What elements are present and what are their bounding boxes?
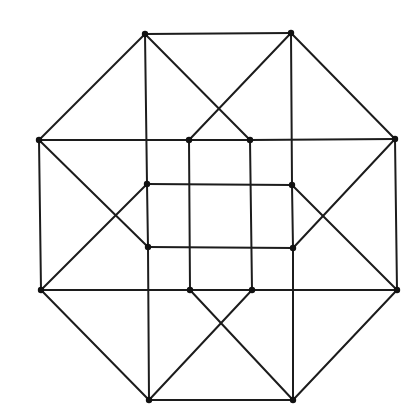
tesseract-diagram: [0, 0, 408, 417]
edge-A-B: [145, 33, 291, 34]
edge-A-K: [145, 34, 147, 184]
edge-E-K: [41, 184, 147, 290]
vertex-C: [36, 137, 42, 143]
edge-D-F: [395, 139, 397, 290]
vertex-I: [186, 137, 192, 143]
vertex-G: [146, 397, 152, 403]
vertex-M: [145, 244, 151, 250]
edge-H-O: [190, 290, 293, 400]
edge-F-H: [293, 290, 397, 400]
vertex-B: [288, 30, 294, 36]
edge-C-E: [39, 140, 41, 290]
edge-J-P: [250, 140, 252, 290]
edge-K-L: [147, 184, 292, 185]
edge-D-N: [293, 139, 395, 248]
edge-C-M: [39, 140, 148, 247]
edge-F-L: [292, 185, 397, 290]
edge-A-J: [145, 34, 250, 140]
edge-L-N: [292, 185, 293, 248]
edge-M-N: [148, 247, 293, 248]
edge-B-L: [291, 33, 292, 185]
vertex-E: [38, 287, 44, 293]
vertex-L: [289, 182, 295, 188]
edge-E-G: [41, 290, 149, 400]
edge-G-P: [149, 290, 252, 400]
edge-A-C: [39, 34, 145, 140]
vertex-A: [142, 31, 148, 37]
edge-K-M: [147, 184, 148, 247]
edge-I-O: [189, 140, 190, 290]
edge-G-M: [148, 247, 149, 400]
vertex-J: [247, 137, 253, 143]
vertex-P: [249, 287, 255, 293]
edge-D-J: [250, 139, 395, 140]
vertex-O: [187, 287, 193, 293]
vertex-F: [394, 287, 400, 293]
vertex-K: [144, 181, 150, 187]
edge-B-D: [291, 33, 395, 139]
vertex-group: [36, 30, 400, 403]
edge-group: [39, 33, 397, 400]
edge-B-I: [189, 33, 291, 140]
vertex-H: [290, 397, 296, 403]
vertex-N: [290, 245, 296, 251]
vertex-D: [392, 136, 398, 142]
